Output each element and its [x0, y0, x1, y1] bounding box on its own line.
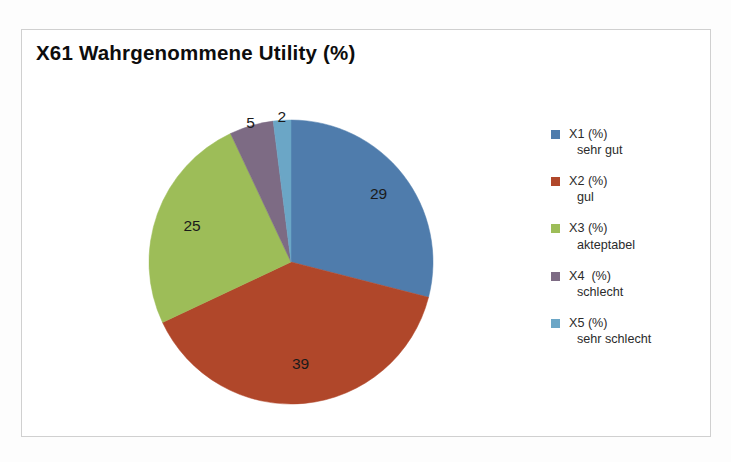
page-title: X61 Wahrgenommene Utility (%) — [36, 41, 355, 65]
legend-item-label-secondary: sehr gut — [569, 142, 711, 158]
legend-item[interactable]: X3 (%)akteptabel — [551, 220, 711, 252]
chart-screenshot: X61 Wahrgenommene Utility (%) 29392552 X… — [0, 0, 731, 462]
legend-item-label-primary: X1 (%) — [569, 126, 711, 142]
legend-swatch-icon — [551, 272, 560, 281]
chart-legend: X1 (%)sehr gutX2 (%)gulX3 (%)akteptabelX… — [551, 126, 711, 362]
legend-swatch-icon — [551, 224, 560, 233]
chart-frame: X61 Wahrgenommene Utility (%) 29392552 X… — [21, 29, 711, 437]
pie-data-label: 39 — [292, 355, 309, 372]
pie-data-label: 5 — [246, 114, 255, 131]
legend-item-label-primary: X3 (%) — [569, 220, 711, 236]
legend-item-label-secondary: schlecht — [569, 284, 711, 300]
pie-chart: 29392552 — [22, 90, 542, 435]
legend-item[interactable]: X5 (%)sehr schlecht — [551, 315, 711, 347]
pie-data-label: 2 — [278, 108, 287, 125]
legend-item-label-secondary: gul — [569, 189, 711, 205]
pie-data-label: 25 — [183, 217, 200, 234]
legend-item[interactable]: X2 (%)gul — [551, 173, 711, 205]
pie-plot-area: 29392552 — [22, 90, 542, 435]
legend-item-label-primary: X4 (%) — [569, 268, 711, 284]
legend-swatch-icon — [551, 130, 560, 139]
legend-item[interactable]: X4 (%)schlecht — [551, 268, 711, 300]
pie-data-label: 29 — [370, 185, 387, 202]
legend-item-label-secondary: sehr schlecht — [569, 331, 711, 347]
legend-swatch-icon — [551, 177, 560, 186]
legend-item-label-secondary: akteptabel — [569, 237, 711, 253]
legend-swatch-icon — [551, 319, 560, 328]
legend-item[interactable]: X1 (%)sehr gut — [551, 126, 711, 158]
legend-item-label-primary: X5 (%) — [569, 315, 711, 331]
legend-item-label-primary: X2 (%) — [569, 173, 711, 189]
